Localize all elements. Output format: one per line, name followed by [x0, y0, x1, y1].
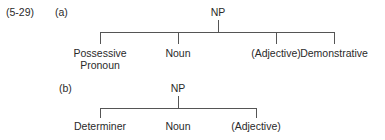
tree-a-root-np: NP — [211, 7, 226, 18]
tree-b-branch-bar — [100, 108, 257, 109]
tree-a-drop-2 — [178, 32, 179, 44]
tree-a-drop-3 — [276, 32, 277, 44]
tree-a-label: (a) — [55, 7, 68, 18]
tree-b-node-determiner: Determiner — [74, 121, 126, 132]
tree-b-root-np: NP — [171, 83, 186, 94]
tree-a-drop-1 — [100, 32, 101, 44]
tree-a-node-demonstrative: Demonstrative — [300, 48, 368, 59]
tree-a-branch-bar — [100, 32, 335, 33]
tree-b-drop-1 — [100, 108, 101, 118]
tree-a-node-possessive: Possessive — [73, 48, 126, 59]
example-number: (5-29) — [6, 7, 34, 18]
tree-a-drop-4 — [334, 32, 335, 44]
tree-b-node-noun: Noun — [165, 121, 190, 132]
tree-b-root-stem — [178, 96, 179, 108]
tree-a-node-pronoun: Pronoun — [80, 60, 120, 71]
tree-a-node-noun: Noun — [165, 48, 190, 59]
tree-b-node-adjective: (Adjective) — [231, 121, 281, 132]
tree-b-label: (b) — [59, 83, 72, 94]
tree-a-node-adjective: (Adjective) — [251, 48, 301, 59]
tree-b-drop-3 — [256, 108, 257, 118]
tree-a-root-stem — [218, 20, 219, 32]
